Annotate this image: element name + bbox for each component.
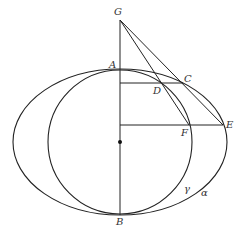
label-D: D <box>152 85 161 96</box>
line-GF <box>120 20 189 125</box>
geometry-diagram: G A C D F E B γ α <box>0 0 243 237</box>
center-point <box>118 140 122 144</box>
label-G: G <box>114 6 122 17</box>
label-alpha: α <box>201 187 208 198</box>
label-C: C <box>184 73 192 84</box>
line-GE <box>120 20 223 125</box>
label-F: F <box>180 127 189 138</box>
label-E: E <box>225 119 234 130</box>
label-gamma: γ <box>184 183 190 194</box>
label-B: B <box>115 216 123 227</box>
label-A: A <box>108 59 116 70</box>
